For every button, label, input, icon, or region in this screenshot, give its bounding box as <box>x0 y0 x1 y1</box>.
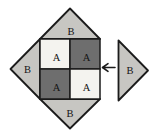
detached-triangle-label: B <box>126 65 133 76</box>
diagram-canvas: B B B A A A A B <box>0 0 156 134</box>
left-triangle-label: B <box>24 64 31 75</box>
quilt-block-assembly-diagram: B B B A A A A B <box>0 0 156 134</box>
bottom-right-square-label: A <box>83 82 91 93</box>
left-arrow-icon <box>103 64 116 72</box>
top-right-square-label: A <box>83 52 91 63</box>
bottom-left-square-label: A <box>53 82 61 93</box>
bottom-triangle-label: B <box>66 108 73 119</box>
top-left-square-label: A <box>53 52 61 63</box>
top-triangle-label: B <box>67 26 74 37</box>
